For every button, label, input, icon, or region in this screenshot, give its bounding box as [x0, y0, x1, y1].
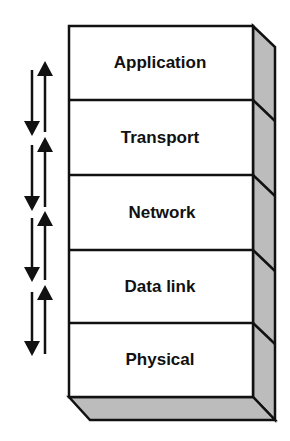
layer-network: Network: [128, 203, 196, 222]
layer-stack-diagram: Application Transport Network Data link …: [0, 0, 290, 441]
arrow-pair-datalink-physical: [24, 285, 53, 356]
arrow-down-icon: [24, 145, 40, 211]
stack-side-face: [253, 26, 275, 420]
arrow-pair-transport-network: [24, 137, 53, 211]
arrow-pair-application-transport: [24, 61, 53, 136]
arrow-pair-network-datalink: [24, 211, 53, 282]
arrow-down-icon: [24, 70, 40, 136]
arrow-up-icon: [37, 285, 53, 354]
layer-data-link: Data link: [125, 277, 196, 296]
arrow-down-icon: [24, 218, 40, 282]
arrow-up-icon: [37, 211, 53, 280]
arrow-down-icon: [24, 292, 40, 356]
layer-transport: Transport: [121, 128, 200, 147]
layer-application: Application: [114, 53, 207, 72]
stack-bottom-face: [69, 397, 275, 420]
layer-physical: Physical: [126, 350, 195, 369]
